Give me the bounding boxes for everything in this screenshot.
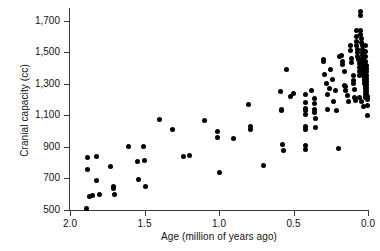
x-axis-title: Age (million of years ago) bbox=[70, 231, 368, 242]
data-point bbox=[313, 116, 318, 121]
y-tick-label: 1,500 bbox=[0, 47, 60, 57]
data-point bbox=[142, 158, 147, 163]
data-point bbox=[97, 192, 102, 197]
data-point bbox=[328, 67, 333, 72]
x-tick-mark bbox=[145, 211, 146, 216]
data-point bbox=[108, 164, 113, 169]
y-tick-label: 500 bbox=[0, 205, 60, 215]
data-point bbox=[284, 67, 289, 72]
data-point bbox=[321, 59, 326, 64]
data-point bbox=[303, 112, 308, 117]
data-point bbox=[157, 117, 162, 122]
data-point bbox=[346, 99, 351, 104]
data-point bbox=[352, 87, 357, 92]
data-point bbox=[141, 144, 146, 149]
data-point bbox=[135, 159, 140, 164]
data-point bbox=[215, 129, 220, 134]
data-point bbox=[278, 89, 283, 94]
data-point bbox=[309, 88, 314, 93]
data-point bbox=[85, 155, 90, 160]
y-tick-mark bbox=[64, 84, 69, 85]
data-point bbox=[303, 147, 308, 152]
y-tick-label: 700 bbox=[0, 173, 60, 183]
data-point bbox=[215, 135, 220, 140]
x-tick-label: 1.0 bbox=[199, 218, 239, 229]
data-point bbox=[331, 99, 336, 104]
data-point bbox=[143, 184, 148, 189]
data-point bbox=[248, 127, 253, 132]
data-point bbox=[246, 102, 251, 107]
data-point bbox=[126, 144, 131, 149]
data-point bbox=[363, 49, 368, 54]
plot-data-area bbox=[70, 8, 368, 210]
x-tick-mark bbox=[294, 211, 295, 216]
data-point bbox=[112, 192, 117, 197]
data-point bbox=[312, 110, 317, 115]
y-tick-label: 1,300 bbox=[0, 79, 60, 89]
data-point bbox=[351, 81, 356, 86]
data-point bbox=[363, 43, 368, 48]
y-tick-mark bbox=[64, 147, 69, 148]
data-point bbox=[358, 13, 363, 18]
data-point bbox=[303, 100, 308, 105]
data-point bbox=[330, 77, 335, 82]
data-point bbox=[339, 53, 344, 58]
y-tick-label: 1,700 bbox=[0, 16, 60, 26]
data-point bbox=[322, 72, 327, 77]
data-point bbox=[291, 91, 296, 96]
data-point bbox=[365, 97, 370, 102]
data-point bbox=[345, 93, 350, 98]
data-point bbox=[90, 193, 95, 198]
data-point bbox=[340, 62, 345, 67]
data-point bbox=[303, 127, 308, 132]
data-point bbox=[281, 148, 286, 153]
data-point bbox=[280, 142, 285, 147]
x-tick-mark bbox=[70, 211, 71, 216]
data-point bbox=[349, 60, 354, 65]
x-tick-label: 0.5 bbox=[274, 218, 314, 229]
data-point bbox=[279, 108, 284, 113]
x-tick-label: 2.0 bbox=[50, 218, 90, 229]
data-point bbox=[231, 136, 236, 141]
data-point bbox=[361, 104, 366, 109]
data-point bbox=[187, 153, 192, 158]
y-tick-label: 1,100 bbox=[0, 110, 60, 120]
data-point bbox=[136, 177, 141, 182]
data-point bbox=[336, 146, 341, 151]
y-tick-mark bbox=[64, 210, 69, 211]
data-point bbox=[342, 69, 347, 74]
x-tick-label: 1.5 bbox=[125, 218, 165, 229]
data-point bbox=[325, 92, 330, 97]
data-point bbox=[325, 107, 330, 112]
x-tick-mark bbox=[368, 211, 369, 216]
data-point bbox=[348, 48, 353, 53]
data-point bbox=[303, 92, 308, 97]
data-point bbox=[333, 88, 338, 93]
data-point bbox=[111, 186, 116, 191]
data-point bbox=[312, 101, 317, 106]
data-point bbox=[327, 86, 332, 91]
data-point bbox=[170, 127, 175, 132]
y-tick-label: 900 bbox=[0, 142, 60, 152]
x-tick-mark bbox=[219, 211, 220, 216]
data-point bbox=[217, 170, 222, 175]
data-point bbox=[334, 108, 339, 113]
y-tick-mark bbox=[64, 115, 69, 116]
y-tick-mark bbox=[64, 52, 69, 53]
y-tick-mark bbox=[64, 21, 69, 22]
data-point bbox=[351, 73, 356, 78]
data-point bbox=[261, 163, 266, 168]
data-point bbox=[365, 113, 370, 118]
data-point bbox=[181, 154, 186, 159]
data-point bbox=[85, 167, 90, 172]
data-point bbox=[202, 118, 207, 123]
y-tick-mark bbox=[64, 178, 69, 179]
data-point bbox=[313, 125, 318, 130]
data-point bbox=[94, 178, 99, 183]
x-tick-label: 0.0 bbox=[348, 218, 380, 229]
data-point bbox=[94, 154, 99, 159]
